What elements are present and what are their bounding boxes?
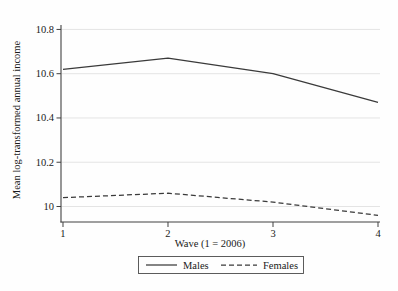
- legend-label-females: Females: [263, 260, 298, 271]
- legend-label-males: Males: [183, 260, 209, 271]
- income-line-chart: 1010.210.410.610.81234 Wave (1 = 2006) M…: [0, 0, 398, 291]
- legend: Males Females: [139, 257, 304, 274]
- y-axis-title: Mean log-transformed annual income: [11, 41, 22, 200]
- y-tick-label: 10.8: [36, 24, 54, 35]
- chart-svg: 1010.210.410.610.81234 Wave (1 = 2006) M…: [0, 0, 398, 291]
- series-line-females: [63, 193, 378, 215]
- y-tick-label: 10.4: [36, 112, 55, 123]
- x-tick-label: 4: [375, 228, 381, 239]
- y-tick-label: 10.2: [36, 157, 54, 168]
- x-tick-label: 1: [60, 228, 65, 239]
- data-series: [63, 58, 378, 215]
- y-tick-label: 10: [44, 201, 55, 212]
- gridlines: [62, 29, 381, 206]
- x-axis-title: Wave (1 = 2006): [175, 238, 246, 250]
- x-tick-label: 2: [165, 228, 170, 239]
- y-tick-label: 10.6: [36, 68, 54, 79]
- series-line-males: [63, 58, 378, 102]
- x-tick-label: 3: [270, 228, 275, 239]
